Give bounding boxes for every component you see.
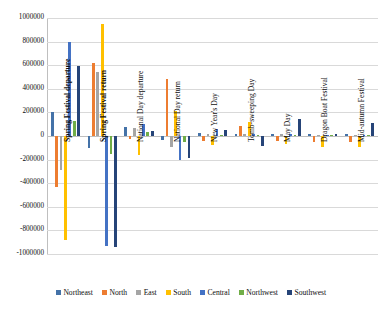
bar-northeast-0: [51, 112, 54, 136]
x-category-label: Spring Festival departure: [63, 59, 72, 142]
bar-northeast-4: [198, 133, 201, 136]
legend-swatch-icon: [200, 290, 205, 295]
bar-north-4: [202, 136, 205, 141]
bar-northwest-0: [73, 121, 76, 136]
legend-item-south[interactable]: South: [166, 288, 191, 297]
bar-northeast-3: [161, 136, 164, 140]
x-category-label: National Day departure: [136, 71, 145, 142]
bar-chart: 10000008000006000004000002000000-200000-…: [0, 0, 382, 311]
y-tick-label: -800000: [0, 225, 44, 233]
bar-north-0: [55, 136, 58, 187]
y-tick-label: 800000: [0, 37, 44, 45]
bar-southwest-0: [77, 66, 80, 136]
bar-south-0: [64, 136, 67, 240]
y-tick-label: 1000000: [0, 13, 44, 21]
legend-swatch-icon: [136, 290, 141, 295]
bar-north-7: [313, 136, 316, 142]
x-category-label: New Year's Day: [210, 93, 219, 142]
y-tick-label: 200000: [0, 107, 44, 115]
x-category-label: Spring Festival return: [99, 70, 108, 142]
bar-southwest-7: [335, 134, 338, 136]
bar-northwest-3: [183, 136, 186, 142]
bar-north-3: [166, 79, 169, 136]
legend-label: Central: [207, 288, 229, 297]
y-tick-label: -200000: [0, 155, 44, 163]
bar-southwest-4: [224, 130, 227, 136]
bar-northeast-8: [345, 134, 348, 136]
legend-label: South: [173, 288, 191, 297]
bar-northwest-6: [294, 135, 297, 136]
legend-swatch-icon: [287, 290, 292, 295]
y-tick-label: 400000: [0, 84, 44, 92]
x-category-label: May Day: [283, 114, 292, 142]
y-tick-label: -1000000: [0, 249, 44, 257]
bar-southwest-2: [151, 131, 154, 136]
legend-label: Northwest: [246, 288, 278, 297]
bar-east-5: [243, 134, 246, 136]
legend-label: North: [109, 288, 127, 297]
bar-southwest-5: [261, 136, 264, 146]
legend-item-east[interactable]: East: [136, 288, 157, 297]
legend-swatch-icon: [166, 290, 171, 295]
y-tick-label: 600000: [0, 60, 44, 68]
bar-north-5: [239, 126, 242, 136]
legend-swatch-icon: [102, 290, 107, 295]
bar-north-6: [276, 136, 279, 141]
gridline: [47, 254, 378, 255]
legend-label: Southwest: [294, 288, 326, 297]
legend-item-northwest[interactable]: Northwest: [239, 288, 278, 297]
y-tick-label: -400000: [0, 178, 44, 186]
bar-north-8: [349, 136, 352, 142]
bar-northwest-4: [220, 135, 223, 136]
bar-northeast-2: [124, 127, 127, 136]
bar-northwest-1: [110, 136, 113, 154]
y-tick-label: 0: [0, 131, 44, 139]
bar-northwest-8: [367, 135, 370, 136]
bar-north-1: [92, 63, 95, 136]
bar-northeast-5: [235, 134, 238, 136]
legend-item-central[interactable]: Central: [200, 288, 230, 297]
bar-southwest-1: [114, 136, 117, 247]
bar-southwest-3: [188, 136, 191, 158]
legend-item-northeast[interactable]: Northeast: [56, 288, 93, 297]
x-category-label: Mid-autumn Festival: [357, 78, 366, 142]
legend-swatch-icon: [56, 290, 61, 295]
legend-swatch-icon: [239, 290, 244, 295]
bar-northeast-6: [271, 134, 274, 136]
bar-east-0: [60, 136, 63, 170]
x-category-label: Dragon Boat Festival: [320, 77, 329, 142]
bar-southwest-8: [371, 123, 374, 136]
legend-label: East: [144, 288, 157, 297]
bar-northwest-7: [330, 135, 333, 136]
bar-southwest-6: [298, 119, 301, 136]
chart-legend: NortheastNorthEastSouthCentralNorthwestS…: [0, 288, 382, 297]
legend-label: Northeast: [63, 288, 93, 297]
x-category-label: Tomb-sweeping Day: [247, 79, 256, 142]
bar-north-2: [129, 136, 132, 139]
bar-northeast-1: [88, 136, 91, 148]
y-tick-label: -600000: [0, 202, 44, 210]
legend-item-southwest[interactable]: Southwest: [287, 288, 326, 297]
x-category-label: National Day return: [173, 81, 182, 142]
bar-central-1: [105, 136, 108, 246]
bar-northeast-7: [308, 134, 311, 136]
bar-northwest-2: [146, 132, 149, 136]
legend-item-north[interactable]: North: [102, 288, 127, 297]
bar-northwest-5: [257, 135, 260, 136]
